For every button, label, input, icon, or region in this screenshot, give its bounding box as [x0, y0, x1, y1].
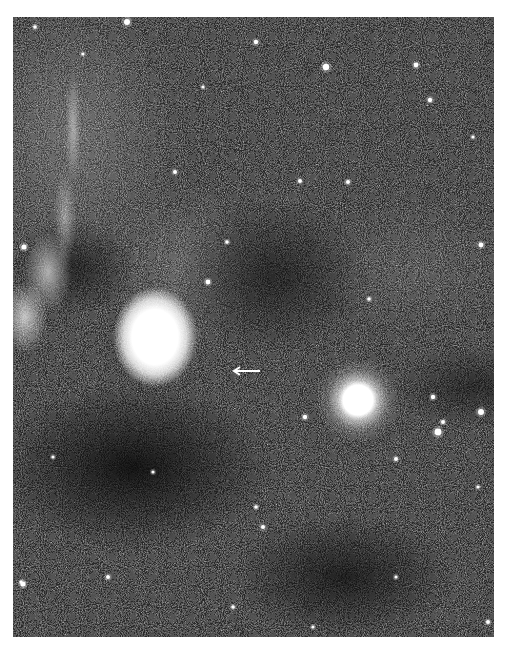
arrow-marker-icon	[231, 366, 261, 376]
star	[471, 135, 474, 138]
star	[21, 244, 26, 249]
star	[346, 180, 350, 184]
star	[201, 85, 204, 88]
star	[51, 455, 54, 458]
star	[151, 470, 154, 473]
star-field	[13, 17, 494, 637]
star	[124, 19, 130, 25]
star	[311, 625, 314, 628]
star	[225, 240, 229, 244]
star	[33, 25, 37, 29]
star	[478, 409, 484, 415]
star	[476, 485, 479, 488]
star	[19, 580, 22, 583]
star	[303, 415, 307, 419]
star	[106, 575, 110, 579]
star	[428, 98, 432, 102]
star	[394, 575, 397, 578]
star	[81, 52, 84, 55]
star	[298, 179, 302, 183]
star	[394, 457, 398, 461]
star	[431, 395, 435, 399]
star	[479, 243, 484, 248]
star	[206, 280, 211, 285]
star	[323, 64, 329, 70]
star	[441, 420, 445, 424]
astronomical-photograph	[13, 17, 494, 637]
star	[173, 170, 177, 174]
star	[254, 505, 258, 509]
star	[261, 525, 265, 529]
star	[367, 297, 371, 301]
star	[486, 620, 490, 624]
star	[414, 63, 419, 68]
star	[231, 605, 235, 609]
star	[254, 40, 258, 44]
star	[435, 429, 442, 436]
